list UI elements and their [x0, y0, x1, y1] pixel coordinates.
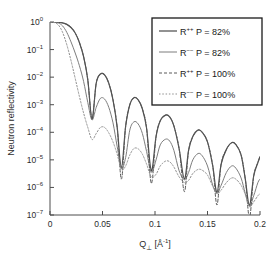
x-axis-ticks: 00.050.10.150.2 [48, 211, 267, 229]
y-tick-label: 100 [30, 16, 43, 27]
x-tick-label: 0.2 [254, 219, 266, 229]
y-tick-label: 10−5 [27, 154, 44, 165]
y-tick-label: 10−7 [27, 209, 44, 220]
neutron-reflectivity-figure: 10010−110−210−310−410−510−610−700.050.10… [0, 0, 280, 260]
y-tick-label: 10−1 [27, 44, 44, 55]
legend: R++ P = 82%R−− P = 82%R++ P = 100%R−− P … [152, 18, 262, 105]
x-tick-label: 0.05 [94, 219, 111, 229]
y-tick-label: 10−4 [27, 126, 44, 137]
x-tick-label: 0.1 [149, 219, 161, 229]
x-tick-label: 0 [48, 219, 53, 229]
y-tick-label: 10−6 [27, 181, 44, 192]
x-axis-title: Q⊥ [Å-1] [139, 238, 171, 251]
reflectivity-chart: 10010−110−210−310−410−510−610−700.050.10… [0, 0, 280, 260]
y-tick-label: 10−3 [27, 99, 44, 110]
x-tick-label: 0.15 [199, 219, 216, 229]
y-tick-label: 10−2 [27, 71, 44, 82]
y-axis-title: Neutron reflectivity [6, 81, 16, 156]
